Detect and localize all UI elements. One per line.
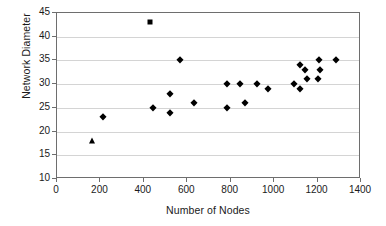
y-tick-mark (52, 154, 56, 155)
data-point-diamond (241, 99, 248, 106)
data-point-diamond (224, 80, 231, 87)
y-tick-mark (52, 59, 56, 60)
data-point-diamond (224, 104, 231, 111)
y-tick-label: 15 (10, 149, 50, 159)
x-tick-label: 1000 (250, 185, 296, 195)
y-gridline (57, 155, 359, 156)
y-tick-mark (52, 107, 56, 108)
scatter-chart: Network Diameter Number of Nodes 1015202… (0, 0, 386, 226)
x-tick-label: 1200 (294, 185, 340, 195)
x-tick-label: 800 (207, 185, 253, 195)
data-point-diamond (149, 104, 156, 111)
data-point-diamond (166, 90, 173, 97)
y-gridline (57, 108, 359, 109)
x-tick-mark (273, 178, 274, 182)
data-point-diamond (314, 76, 321, 83)
y-tick-label: 25 (10, 102, 50, 112)
y-gridline (57, 132, 359, 133)
x-tick-mark (56, 178, 57, 182)
y-tick-label: 35 (10, 54, 50, 64)
y-tick-label: 45 (10, 7, 50, 17)
data-point-square (148, 20, 153, 25)
y-tick-mark (52, 12, 56, 13)
data-point-diamond (303, 76, 310, 83)
y-tick-mark (52, 83, 56, 84)
y-tick-label: 10 (10, 173, 50, 183)
x-tick-mark (317, 178, 318, 182)
x-tick-mark (230, 178, 231, 182)
x-axis-title: Number of Nodes (56, 204, 360, 216)
data-point-triangle (89, 137, 95, 143)
y-tick-mark (52, 36, 56, 37)
y-gridline (57, 84, 359, 85)
x-tick-mark (143, 178, 144, 182)
y-tick-label: 30 (10, 78, 50, 88)
data-point-diamond (166, 109, 173, 116)
data-point-diamond (332, 57, 339, 64)
y-gridline (57, 60, 359, 61)
x-tick-label: 0 (33, 185, 79, 195)
data-point-diamond (253, 80, 260, 87)
x-tick-label: 600 (163, 185, 209, 195)
data-point-diamond (264, 85, 271, 92)
y-gridline (57, 37, 359, 38)
data-point-diamond (316, 66, 323, 73)
data-point-diamond (301, 66, 308, 73)
data-point-diamond (315, 57, 322, 64)
x-tick-label: 200 (76, 185, 122, 195)
y-tick-label: 20 (10, 126, 50, 136)
y-tick-mark (52, 131, 56, 132)
y-tick-label: 40 (10, 31, 50, 41)
data-point-diamond (99, 114, 106, 121)
x-tick-mark (99, 178, 100, 182)
data-point-diamond (237, 80, 244, 87)
y-axis-title: Network Diameter (20, 0, 32, 136)
data-point-diamond (297, 85, 304, 92)
plot-area (56, 12, 360, 178)
data-point-diamond (190, 99, 197, 106)
x-tick-label: 400 (120, 185, 166, 195)
x-tick-mark (186, 178, 187, 182)
data-point-diamond (176, 57, 183, 64)
x-tick-mark (360, 178, 361, 182)
data-point-diamond (290, 80, 297, 87)
x-tick-label: 1400 (337, 185, 383, 195)
